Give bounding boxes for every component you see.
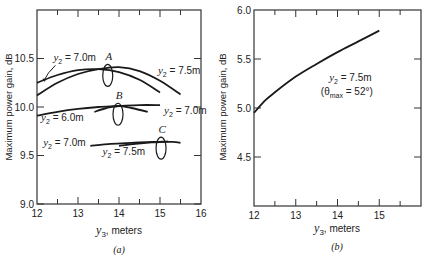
y-tick-label: 6.0 (237, 5, 251, 16)
group-label: B (116, 89, 123, 101)
curve-label: y2 = 7.5m (102, 145, 145, 159)
y-tick-label: 10.5 (15, 53, 35, 64)
x-tick-label: 15 (154, 208, 166, 219)
curve-label: y2 = 7.5m (328, 71, 371, 85)
curve-label: y2 = 7.0m (42, 136, 85, 150)
curve-label: y2 = 7.5m (157, 64, 200, 78)
group-ellipse-marker (156, 137, 166, 159)
figure: 12131415169.09.510.010.5 ABCy2 = 7.0my2 … (0, 0, 425, 258)
x-axis-label-a: y3, meters (95, 223, 142, 239)
x-axis-label-b: y3, meters (313, 221, 360, 237)
panel-label-a: (a) (113, 244, 125, 256)
y-tick-label: 5.5 (237, 54, 251, 65)
y-axis-label-a: Maximum power gain, dB (3, 53, 14, 160)
x-tick-label: 13 (72, 208, 84, 219)
curve-label: y2 = 7.0m (52, 51, 95, 65)
chart-panel-b: 121314154.55.05.56.0 y2 = 7.5m(θmax = 52… (217, 5, 421, 254)
y-tick-label: 4.5 (237, 152, 251, 163)
plot-frame-b (254, 10, 421, 206)
y-tick-label: 9.5 (20, 150, 34, 161)
x-tick-label: 12 (248, 210, 260, 221)
group-label: C (158, 123, 166, 135)
curve-label: y2 = 6.0m (40, 111, 83, 125)
theta-max-label: (θmax = 52°) (321, 86, 373, 99)
annotations-b: y2 = 7.5m(θmax = 52°) (321, 71, 373, 100)
y-tick-label: 5.0 (237, 103, 251, 114)
panel-label-b: (b) (331, 241, 343, 253)
x-tick-label: 15 (374, 210, 386, 221)
x-tick-label: 14 (332, 210, 344, 221)
chart-panel-a: 12131415169.09.510.010.5 ABCy2 = 7.0my2 … (3, 10, 207, 256)
curve-label: y2 = 7.0m (163, 104, 206, 118)
x-tick-label: 16 (195, 208, 207, 219)
y-tick-label: 10.0 (15, 102, 35, 113)
group-label: A (104, 50, 112, 62)
y-axis-label-b: Maximum power gain, dB (217, 53, 228, 160)
x-tick-label: 13 (290, 210, 302, 221)
y-tick-label: 9.0 (20, 199, 34, 210)
x-tick-label: 14 (113, 208, 125, 219)
axis-ticks-b: 121314154.55.05.56.0 (237, 5, 421, 222)
x-tick-label: 12 (31, 208, 43, 219)
